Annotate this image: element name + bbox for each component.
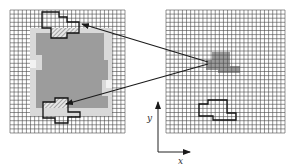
boundary-notch-left-overlay [30, 60, 36, 68]
left-panel [10, 10, 125, 133]
y-axis-label: y [146, 113, 153, 123]
dark-gray-interior-overlay [36, 33, 108, 108]
x-axis-label: x [178, 156, 183, 166]
boundary-notch-right-overlay [106, 80, 112, 88]
right-panel [166, 10, 285, 133]
diagram-canvas: y x [0, 0, 289, 167]
